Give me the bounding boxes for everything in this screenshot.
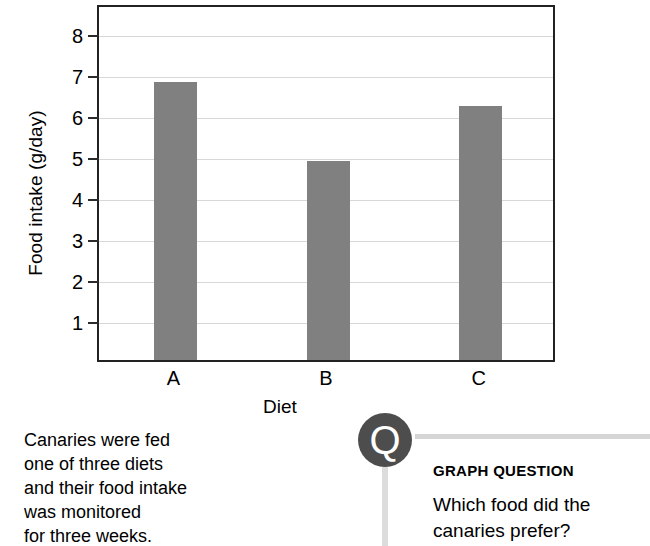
graph-question-line: Which food did the bbox=[433, 492, 648, 518]
y-axis-tick-label: 1 bbox=[72, 313, 83, 333]
gridline bbox=[99, 36, 553, 37]
callout-horizontal-rule bbox=[415, 434, 650, 439]
y-axis-tick-label: 7 bbox=[72, 67, 83, 87]
y-axis-tick-mark bbox=[88, 240, 99, 242]
y-axis-tick-mark bbox=[88, 158, 99, 160]
caption-line: and their food intake bbox=[24, 476, 294, 500]
caption-line: one of three diets bbox=[24, 452, 294, 476]
x-axis-tick-label: C bbox=[471, 368, 485, 388]
y-axis-tick-label: 5 bbox=[72, 149, 83, 169]
x-axis-tick-label: A bbox=[167, 368, 180, 388]
y-axis-tick-mark bbox=[88, 35, 99, 37]
y-axis-tick-mark bbox=[88, 76, 99, 78]
graph-question-heading: GRAPH QUESTION bbox=[433, 462, 574, 479]
y-axis-tick-label: 3 bbox=[72, 231, 83, 251]
question-badge-icon: Q bbox=[358, 413, 412, 467]
y-axis-tick-mark bbox=[88, 322, 99, 324]
y-axis-title: Food intake (g/day) bbox=[25, 63, 47, 323]
graph-question-line: canaries prefer? bbox=[433, 518, 648, 544]
graph-question-callout: Q GRAPH QUESTION Which food did thecanar… bbox=[320, 400, 650, 546]
chart-caption: Canaries were fedone of three dietsand t… bbox=[24, 428, 294, 546]
y-axis-tick-label: 4 bbox=[72, 190, 83, 210]
caption-line: Canaries were fed bbox=[24, 428, 294, 452]
bar bbox=[154, 82, 197, 360]
y-axis-tick-mark bbox=[88, 199, 99, 201]
y-axis-tick-mark bbox=[88, 117, 99, 119]
bar bbox=[307, 161, 350, 360]
y-axis-tick-mark bbox=[88, 281, 99, 283]
y-axis-tick-label: 6 bbox=[72, 108, 83, 128]
gridline bbox=[99, 77, 553, 78]
bar bbox=[459, 106, 502, 360]
plot-area: 87654321 bbox=[97, 5, 555, 362]
y-axis-tick-label: 8 bbox=[72, 26, 83, 46]
caption-line: was monitored bbox=[24, 500, 294, 524]
caption-line: for three weeks. bbox=[24, 524, 294, 546]
graph-question-text: Which food did thecanaries prefer? bbox=[433, 492, 648, 544]
x-axis-title-text: Diet bbox=[263, 396, 297, 417]
y-axis-tick-label: 2 bbox=[72, 272, 83, 292]
bar-chart-figure: Food intake (g/day) 87654321 ABC Diet bbox=[0, 0, 650, 415]
question-badge-letter: Q bbox=[358, 413, 412, 467]
x-axis-tick-label: B bbox=[319, 368, 332, 388]
